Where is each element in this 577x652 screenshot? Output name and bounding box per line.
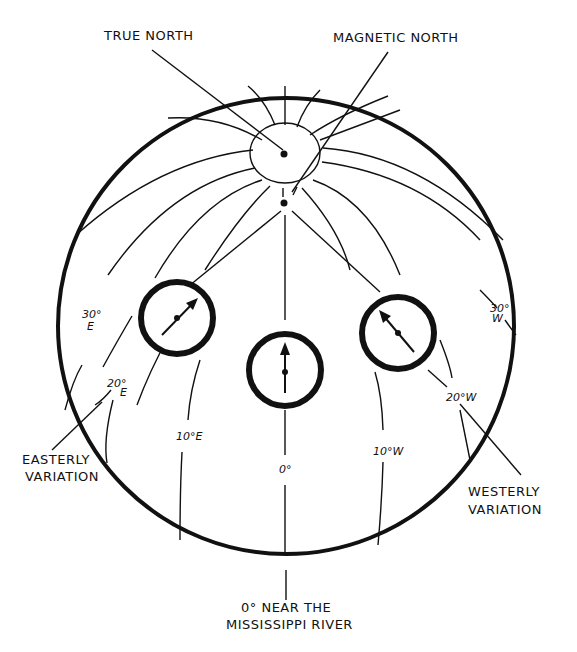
isogonic-10e: 10°E [176,430,202,443]
isogonic-30w-dir: W [492,312,504,325]
isogonic-20e-dir: E [120,386,127,399]
easterly-label-line2: VARIATION [25,469,99,484]
true-north-dot [281,151,288,158]
isogonic-30e-dir: E [87,320,94,333]
magnetic-north-dot [281,200,288,207]
magnetic-north-leader [292,52,388,192]
easterly-leader [52,402,102,450]
center-compass [249,334,321,406]
isogonic-20w: 20°W [446,391,477,404]
declination-diagram: TRUE NORTH MAGNETIC NORTH EASTERLY VARIA… [0,0,577,652]
westerly-label-line1: WESTERLY [468,484,540,499]
westerly-label-line2: VARIATION [468,502,542,517]
west-compass [362,297,434,369]
isogonic-zero: 0° [279,463,292,476]
isogonic-10w: 10°W [373,445,404,458]
true-north-label: TRUE NORTH [103,28,194,43]
magnetic-north-label: MAGNETIC NORTH [333,30,459,45]
zero-line-label-line1: 0° NEAR THE [241,600,331,615]
east-compass [141,282,213,354]
zero-line-label-line2: MISSISSIPPI RIVER [226,617,353,632]
easterly-label-line1: EASTERLY [22,452,90,467]
